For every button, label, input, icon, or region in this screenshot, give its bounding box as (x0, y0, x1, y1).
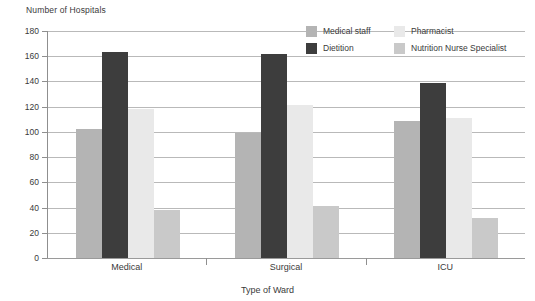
bar (128, 109, 154, 258)
y-tick-mark (42, 107, 47, 108)
bar-group-surgical (235, 31, 339, 258)
legend-label: Dietition (323, 43, 354, 54)
y-tick-mark (42, 157, 47, 158)
y-tick-label: 60 (30, 177, 39, 187)
y-tick-mark (42, 56, 47, 57)
legend-item[interactable]: Pharmacist (394, 26, 454, 37)
bar (102, 52, 128, 258)
bar (313, 206, 339, 258)
bar-chart: Number of Hospitals 02040608010012014016… (0, 0, 535, 301)
legend-label: Medical staff (323, 26, 371, 37)
y-tick-label: 80 (30, 152, 39, 162)
y-tick-label: 120 (25, 102, 39, 112)
y-tick-label: 0 (34, 253, 39, 263)
y-tick-mark (42, 182, 47, 183)
legend-swatch-icon (306, 43, 317, 54)
y-tick-label: 40 (30, 203, 39, 213)
x-axis-label-icu: ICU (438, 262, 454, 272)
x-axis-title: Type of Ward (0, 285, 535, 295)
bar (394, 121, 420, 258)
legend-swatch-icon (306, 26, 317, 37)
x-axis-label-surgical: Surgical (270, 262, 303, 272)
legend-swatch-icon (394, 26, 405, 37)
bar (446, 118, 472, 258)
bars-layer (48, 31, 525, 258)
legend-swatch-icon (394, 43, 405, 54)
y-tick-mark (42, 81, 47, 82)
bar (261, 54, 287, 258)
y-tick-mark (42, 208, 47, 209)
y-tick-label: 20 (30, 228, 39, 238)
y-tick-mark (42, 132, 47, 133)
legend-item[interactable]: Nutrition Nurse Specialist (394, 43, 506, 54)
legend-item[interactable]: Medical staff (306, 26, 371, 37)
bar (154, 210, 180, 258)
bar (472, 218, 498, 258)
bar (76, 129, 102, 258)
bar (420, 83, 446, 258)
y-axis-title: Number of Hospitals (26, 5, 106, 15)
y-tick-mark (42, 31, 47, 32)
bar (287, 105, 313, 258)
x-axis-label-medical: Medical (111, 262, 142, 272)
y-tick-label: 100 (25, 127, 39, 137)
plot-area: 020406080100120140160180 (47, 31, 525, 258)
y-tick-label: 160 (25, 51, 39, 61)
legend-label: Nutrition Nurse Specialist (411, 43, 506, 54)
x-axis-labels: MedicalSurgicalICU (47, 262, 525, 276)
legend-item[interactable]: Dietition (306, 43, 354, 54)
bar-group-medical (76, 31, 180, 258)
y-tick-label: 140 (25, 76, 39, 86)
chart-legend: Medical staffPharmacistDietitionNutritio… (306, 26, 534, 60)
bar-group-icu (394, 31, 498, 258)
legend-label: Pharmacist (411, 26, 454, 37)
bar (235, 133, 261, 258)
y-tick-mark (42, 233, 47, 234)
y-tick-label: 180 (25, 26, 39, 36)
